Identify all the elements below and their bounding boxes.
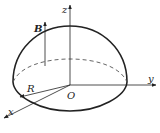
diagram-canvas: z y x O R B xyxy=(0,0,160,133)
radius-label: R xyxy=(26,83,35,94)
y-axis-label: y xyxy=(147,73,154,84)
x-axis xyxy=(4,85,70,118)
b-field-label: B xyxy=(33,23,42,34)
origin-label: O xyxy=(67,90,75,101)
hemisphere-diagram: z y x O R B xyxy=(0,0,160,133)
z-axis-label: z xyxy=(61,4,68,15)
x-axis-label: x xyxy=(8,106,14,117)
